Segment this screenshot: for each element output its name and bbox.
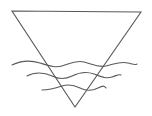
diagram-canvas <box>0 0 152 116</box>
background <box>0 0 152 116</box>
water-symbol-diagram <box>0 0 152 116</box>
